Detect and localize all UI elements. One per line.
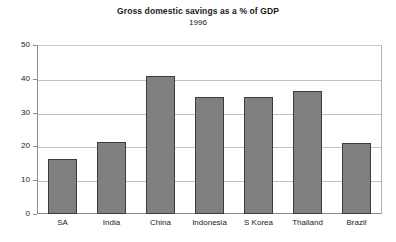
x-tick-label-brazil: Brazil [332,218,381,228]
page-title: Gross domestic savings as a % of GDP [0,6,396,17]
bars-layer [38,46,381,214]
y-axis: 50 40 30 20 10 0 [0,45,37,215]
bar-slot-india [87,46,136,214]
y-tick-label-50: 50 [21,41,30,49]
bar-slot-thailand [283,46,332,214]
y-tick-label-10: 10 [21,176,30,184]
x-tick-label-thailand: Thailand [283,218,332,228]
x-tick-label-china: China [136,218,185,228]
bar-slot-s-korea [234,46,283,214]
x-tick-label-indonesia: Indonesia [185,218,234,228]
bar-slot-china [136,46,185,214]
bar-india[interactable] [97,142,126,214]
y-tick-label-30: 30 [21,109,30,117]
bar-slot-sa [38,46,87,214]
bar-thailand[interactable] [293,91,322,214]
chart-title-block: Gross domestic savings as a % of GDP 199… [0,6,396,28]
bar-sa[interactable] [48,159,77,214]
bar-slot-indonesia [185,46,234,214]
bar-brazil[interactable] [342,143,371,214]
y-tick-label-0: 0 [26,210,30,218]
chart-container: Gross domestic savings as a % of GDP 199… [0,0,396,242]
bar-s-korea[interactable] [244,97,273,214]
x-axis: SA India China Indonesia S Korea Thailan… [38,218,381,228]
x-tick-label-india: India [87,218,136,228]
bar-china[interactable] [146,76,175,214]
bar-indonesia[interactable] [195,97,224,214]
x-tick-label-sa: SA [38,218,87,228]
y-tick-label-40: 40 [21,75,30,83]
bar-slot-brazil [332,46,381,214]
chart-subtitle: 1996 [0,17,396,28]
y-tick-label-20: 20 [21,142,30,150]
x-tick-label-s-korea: S Korea [234,218,283,228]
y-tickmark-0 [33,214,37,215]
